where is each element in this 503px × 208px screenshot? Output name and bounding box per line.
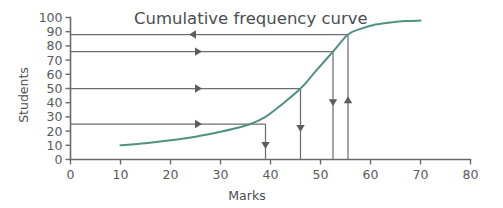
y-tick-label-40: 40 — [47, 95, 63, 110]
cumulative-frequency-curve — [121, 21, 421, 146]
construction-line-x46-arrowhead — [296, 125, 304, 132]
cumulative-frequency-chart: 0102030405060708090100 01020304050607080… — [0, 0, 503, 208]
x-tick-label-20: 20 — [163, 167, 179, 182]
construction-line-x39-arrowhead — [261, 142, 269, 149]
x-tick-label-60: 60 — [363, 167, 379, 182]
y-tick-label-100: 100 — [39, 10, 63, 25]
x-tick-label-0: 0 — [67, 167, 75, 182]
y-tick-label-70: 70 — [47, 53, 63, 68]
construction-line-88-arrowhead — [189, 30, 196, 38]
construction-line-25 — [71, 120, 266, 128]
construction-line-76-arrowhead — [195, 47, 202, 55]
y-tick-label-0: 0 — [55, 152, 63, 167]
construction-line-76 — [71, 47, 334, 55]
y-tick-label-60: 60 — [47, 67, 63, 82]
construction-line-x39 — [261, 124, 269, 160]
chart-canvas: 0102030405060708090100 01020304050607080… — [0, 0, 503, 208]
construction-line-x55 — [344, 35, 352, 160]
x-axis-label: Marks — [228, 188, 265, 203]
y-tick-label-90: 90 — [47, 24, 63, 39]
chart-title: Cumulative frequency curve — [134, 9, 368, 28]
x-tick-label-80: 80 — [463, 167, 479, 182]
y-tick-label-50: 50 — [47, 81, 63, 96]
construction-line-25-arrowhead — [195, 120, 202, 128]
construction-line-x52 — [329, 52, 337, 160]
x-tick-label-40: 40 — [263, 167, 279, 182]
construction-line-x55-arrowhead — [344, 96, 352, 103]
construction-line-50-arrowhead — [195, 84, 202, 92]
y-tick-label-30: 30 — [47, 109, 63, 124]
x-axis-ticks-group: 01020304050607080 — [67, 160, 479, 182]
y-tick-label-10: 10 — [47, 138, 63, 153]
y-tick-label-20: 20 — [47, 124, 63, 139]
y-tick-label-80: 80 — [47, 38, 63, 53]
x-tick-label-50: 50 — [313, 167, 329, 182]
construction-line-50 — [71, 84, 301, 92]
x-tick-label-30: 30 — [213, 167, 229, 182]
y-axis-ticks-group: 0102030405060708090100 — [39, 10, 71, 167]
y-axis-label: Students — [16, 67, 31, 123]
construction-lines-group — [71, 30, 353, 159]
construction-line-x52-arrowhead — [329, 99, 337, 106]
construction-line-88 — [71, 30, 349, 38]
construction-line-x46 — [296, 89, 304, 160]
x-tick-label-10: 10 — [113, 167, 129, 182]
x-tick-label-70: 70 — [413, 167, 429, 182]
